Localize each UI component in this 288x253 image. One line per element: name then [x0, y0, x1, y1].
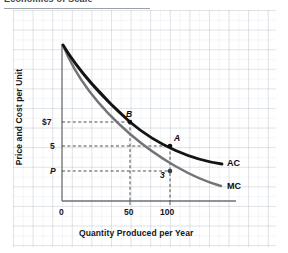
curve-mc	[63, 45, 221, 186]
data-point-a	[168, 144, 173, 149]
y-axis-title: Price and Cost per Unit	[14, 57, 24, 177]
x-axis-title: Quantity Produced per Year	[79, 228, 193, 238]
point-label-b: B	[126, 109, 132, 119]
screenshot-root: Economics of Scale Price and Cost per Un…	[0, 0, 288, 253]
point-label-3: 3	[160, 170, 165, 180]
y-tick-label-5: 5	[50, 141, 55, 151]
curve-label-mc: MC	[227, 181, 241, 191]
curve-label-ac: AC	[227, 158, 240, 168]
data-point-b	[128, 120, 133, 125]
x-tick-label-0: 0	[59, 207, 64, 217]
curve-ac	[63, 45, 222, 164]
y-tick-label-7: $7	[42, 117, 51, 127]
data-point-3	[168, 169, 173, 174]
x-tick-label-100: 100	[160, 207, 174, 217]
y-tick-label-P: P	[50, 166, 56, 176]
point-label-a: A	[174, 133, 180, 143]
x-tick-label-50: 50	[124, 207, 133, 217]
